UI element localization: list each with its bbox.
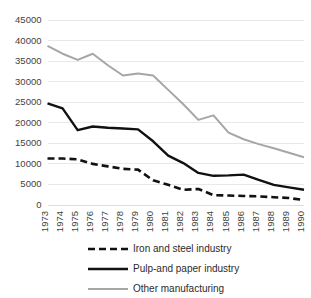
y-axis-tick-label: 20000 <box>15 117 41 128</box>
y-axis-tick-label: 45000 <box>15 14 41 25</box>
y-axis-tick-label: 35000 <box>15 55 41 66</box>
y-axis-tick-label: 40000 <box>15 35 41 46</box>
x-axis-tick-label: 1983 <box>189 211 200 232</box>
x-axis-tick-label: 1977 <box>99 211 110 232</box>
chart-legend: Iron and steel industryPulp-and paper in… <box>88 243 239 294</box>
line-chart-figure: 0500010000150002000025000300003500040000… <box>0 0 311 298</box>
x-axis-tick-label: 1978 <box>114 211 125 232</box>
x-axis-tick-label: 1988 <box>265 211 276 232</box>
x-axis-tick-label: 1985 <box>220 211 231 232</box>
x-axis-tick-label: 1975 <box>69 211 80 232</box>
x-axis-tick-label: 1981 <box>159 211 170 232</box>
x-axis-tick-label: 1979 <box>129 211 140 232</box>
x-axis-tick-label: 1974 <box>54 211 65 232</box>
x-axis-tick-label: 1987 <box>250 211 261 232</box>
x-axis-tick-label: 1980 <box>144 211 155 232</box>
y-axis-tick-label: 30000 <box>15 76 41 87</box>
x-axis-tick-label: 1990 <box>295 211 306 232</box>
y-axis-tick-label: 5000 <box>20 178 41 189</box>
x-axis-tick-label: 1982 <box>174 211 185 232</box>
chart-plot-svg: 0500010000150002000025000300003500040000… <box>0 0 311 298</box>
x-axis-tick-label: 1973 <box>39 211 50 232</box>
x-axis-tick-label: 1986 <box>235 211 246 232</box>
legend-label: Iron and steel industry <box>133 243 231 254</box>
series-line-iron-and-steel-industry <box>48 159 305 201</box>
y-axis-tick-label: 25000 <box>15 96 41 107</box>
x-axis-tick-label: 1984 <box>204 211 215 232</box>
series-line-other-manufacturing <box>48 46 305 157</box>
y-axis-tick-label: 10000 <box>15 158 41 169</box>
x-axis-tick-label: 1976 <box>84 211 95 232</box>
gridlines <box>48 20 305 205</box>
y-axis-tick-labels: 0500010000150002000025000300003500040000… <box>15 14 41 210</box>
legend-label: Pulp-and paper industry <box>133 263 239 274</box>
legend-label: Other manufacturing <box>133 283 224 294</box>
y-axis-tick-label: 0 <box>36 199 41 210</box>
x-axis-tick-label: 1989 <box>280 211 291 232</box>
x-axis-tick-labels: 1973197419751976197719781979198019811982… <box>39 211 307 232</box>
y-axis-tick-label: 15000 <box>15 137 41 148</box>
